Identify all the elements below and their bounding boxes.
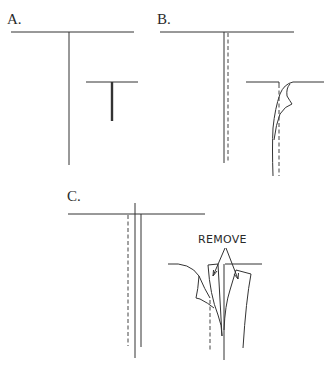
panel-c-detail: REMOVE: [168, 233, 262, 360]
remove-annotation: REMOVE: [198, 233, 247, 246]
panel-a-detail: [86, 82, 138, 121]
remove-arrow-left: [213, 248, 225, 276]
panel-b-detail: [246, 82, 324, 176]
diagram-canvas: A. B. C. REMOVE: [0, 0, 334, 370]
detail-c-left-curve: [168, 264, 210, 298]
panel-c-label: C.: [67, 188, 81, 204]
panel-b-label: B.: [157, 11, 171, 27]
detail-b-fold-flap: [274, 84, 292, 140]
panel-a-label: A.: [7, 11, 22, 27]
detail-c-wedge-right: [224, 270, 251, 348]
detail-b-left-edge: [246, 82, 279, 84]
panel-a: A.: [7, 11, 138, 165]
panel-c: C. REMOVE: [67, 188, 262, 360]
panel-b: B.: [157, 11, 324, 176]
